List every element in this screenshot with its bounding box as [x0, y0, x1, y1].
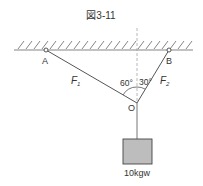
force-diagram: 図3-11 A B O F1 F2 60° 30° 10k	[0, 0, 203, 186]
pin-b	[167, 48, 171, 52]
ceiling	[14, 41, 193, 50]
figure-title: 図3-11	[86, 10, 116, 21]
weight-label: 10kgw	[124, 168, 151, 178]
label-b: B	[166, 56, 172, 66]
angle-arc-60	[123, 87, 137, 95]
angle-arc-30	[137, 87, 145, 89]
angle-label-30: 30°	[139, 77, 152, 87]
angle-label-60: 60°	[120, 78, 133, 88]
weight-box	[123, 139, 152, 164]
label-a: A	[42, 56, 48, 66]
label-f1: F1	[71, 75, 80, 87]
ceiling-hatch	[18, 41, 192, 49]
label-o: O	[128, 103, 135, 113]
pin-a	[44, 48, 48, 52]
label-f2: F2	[160, 75, 170, 87]
